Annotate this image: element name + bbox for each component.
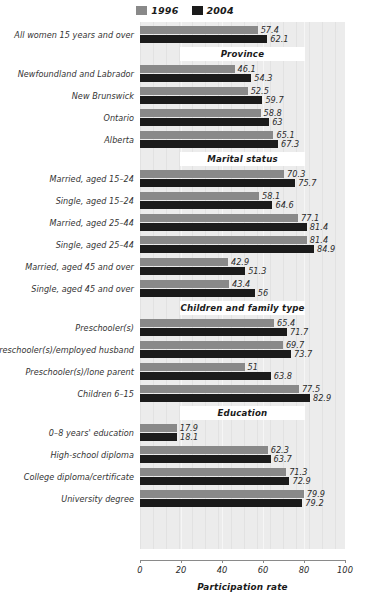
row-category-label: Alberta bbox=[0, 129, 134, 151]
legend-swatch-2004 bbox=[192, 6, 203, 15]
bar-value-label: 18.1 bbox=[180, 433, 198, 441]
chart-row: College diploma/certificate71.372.9 bbox=[0, 466, 370, 488]
axis-tick-label-80: 80 bbox=[299, 565, 310, 575]
bar-1996 bbox=[140, 65, 235, 73]
bar-1996 bbox=[140, 424, 177, 432]
bar-value-label: 72.9 bbox=[292, 477, 310, 485]
row-bars: 71.372.9 bbox=[140, 466, 345, 488]
chart-row: Single, aged 45 and over43.456 bbox=[0, 278, 370, 300]
bar-value-label: 54.3 bbox=[254, 74, 272, 82]
row-category-label: Newfoundland and Labrador bbox=[0, 63, 134, 85]
section-header-band: Children and family type bbox=[140, 300, 345, 317]
bar-1996 bbox=[140, 131, 273, 139]
axis-tick-80 bbox=[304, 560, 305, 563]
row-category-label: High-school diploma bbox=[0, 444, 134, 466]
chart-row: University degree79.979.2 bbox=[0, 488, 370, 510]
axis-tick-100 bbox=[345, 560, 346, 563]
row-category-label: 0–8 years' education bbox=[0, 422, 134, 444]
bar-value-label: 65.4 bbox=[277, 319, 295, 327]
row-category-label: All women 15 years and over bbox=[0, 24, 134, 46]
row-category-label: Preschooler(s)/employed husband bbox=[0, 339, 134, 361]
chart-row: Preschooler(s)65.471.7 bbox=[0, 317, 370, 339]
row-bars: 58.164.6 bbox=[140, 190, 345, 212]
axis-tick-label-40: 40 bbox=[217, 565, 228, 575]
bar-1996 bbox=[140, 363, 245, 371]
bar-2004 bbox=[140, 140, 278, 148]
bar-1996 bbox=[140, 192, 259, 200]
row-category-label: Children 6–15 bbox=[0, 383, 134, 405]
bar-1996 bbox=[140, 236, 307, 244]
bar-2004 bbox=[140, 455, 271, 463]
row-bars: 79.979.2 bbox=[140, 488, 345, 510]
legend-entry-1996: 1996 bbox=[136, 5, 178, 16]
bar-2004 bbox=[140, 372, 271, 380]
legend-entry-2004: 2004 bbox=[192, 5, 234, 16]
row-category-label: Preschooler(s) bbox=[0, 317, 134, 339]
bar-value-label: 69.7 bbox=[286, 341, 304, 349]
bar-1996 bbox=[140, 280, 229, 288]
chart-row: Preschooler(s)/employed husband69.773.7 bbox=[0, 339, 370, 361]
section-band: Province bbox=[180, 47, 305, 61]
row-category-label: Single, aged 15–24 bbox=[0, 190, 134, 212]
section-header-band: Education bbox=[140, 405, 345, 422]
row-bars: 46.154.3 bbox=[140, 63, 345, 85]
row-bars: 81.484.9 bbox=[140, 234, 345, 256]
bar-2004 bbox=[140, 74, 251, 82]
section-header-band: Marital status bbox=[140, 151, 345, 168]
bar-value-label: 51 bbox=[248, 363, 258, 371]
bar-1996 bbox=[140, 87, 248, 95]
bar-1996 bbox=[140, 341, 283, 349]
bar-1996 bbox=[140, 319, 274, 327]
bar-value-label: 63 bbox=[272, 118, 282, 126]
bar-2004 bbox=[140, 96, 262, 104]
row-category-label: Married, aged 25–44 bbox=[0, 212, 134, 234]
row-bars: 58.863 bbox=[140, 107, 345, 129]
bar-2004 bbox=[140, 477, 289, 485]
participation-rate-bar-chart: 1996 2004 All women 15 years and over57.… bbox=[0, 0, 370, 610]
chart-row: Preschooler(s)/lone parent5163.8 bbox=[0, 361, 370, 383]
axis-tick-label-100: 100 bbox=[337, 565, 353, 575]
row-category-label: Ontario bbox=[0, 107, 134, 129]
bar-value-label: 77.1 bbox=[301, 214, 319, 222]
row-bars: 62.363.7 bbox=[140, 444, 345, 466]
bar-value-label: 63.7 bbox=[274, 455, 292, 463]
row-bars: 52.559.7 bbox=[140, 85, 345, 107]
bar-value-label: 82.9 bbox=[313, 394, 331, 402]
bar-value-label: 59.7 bbox=[265, 96, 283, 104]
bar-2004 bbox=[140, 499, 302, 507]
row-bars: 65.167.3 bbox=[140, 129, 345, 151]
chart-row: Children 6–1577.582.9 bbox=[0, 383, 370, 405]
bar-value-label: 67.3 bbox=[281, 140, 299, 148]
bar-2004 bbox=[140, 328, 287, 336]
row-bars: 69.773.7 bbox=[140, 339, 345, 361]
section-band: Education bbox=[180, 406, 305, 420]
bar-1996 bbox=[140, 446, 268, 454]
row-bars: 5163.8 bbox=[140, 361, 345, 383]
bar-value-label: 58.8 bbox=[264, 109, 282, 117]
row-category-label: Single, aged 45 and over bbox=[0, 278, 134, 300]
section-title: Marital status bbox=[207, 154, 278, 164]
bar-2004 bbox=[140, 350, 291, 358]
bar-1996 bbox=[140, 385, 299, 393]
bar-1996 bbox=[140, 214, 298, 222]
section-title: Province bbox=[221, 49, 264, 59]
chart-row: 0–8 years' education17.918.1 bbox=[0, 422, 370, 444]
bar-value-label: 77.5 bbox=[302, 385, 320, 393]
section-title: Children and family type bbox=[180, 303, 304, 313]
bar-2004 bbox=[140, 223, 307, 231]
bar-value-label: 71.3 bbox=[289, 468, 307, 476]
section-header-band: Province bbox=[140, 46, 345, 63]
axis-tick-60 bbox=[263, 560, 264, 563]
bar-1996 bbox=[140, 258, 228, 266]
bar-value-label: 70.3 bbox=[287, 170, 305, 178]
legend-label-2004: 2004 bbox=[207, 5, 234, 16]
row-bars: 77.582.9 bbox=[140, 383, 345, 405]
chart-row: Married, aged 45 and over42.951.3 bbox=[0, 256, 370, 278]
chart-row: Married, aged 15–2470.375.7 bbox=[0, 168, 370, 190]
bar-value-label: 79.9 bbox=[307, 490, 325, 498]
bar-2004 bbox=[140, 179, 295, 187]
bar-value-label: 75.7 bbox=[298, 179, 316, 187]
bar-2004 bbox=[140, 433, 177, 441]
bar-1996 bbox=[140, 26, 258, 34]
section-band: Marital status bbox=[180, 152, 305, 166]
